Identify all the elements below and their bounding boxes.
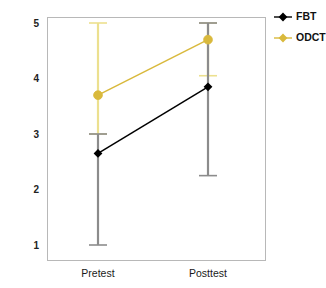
legend-marker-diamond-fbt — [279, 13, 288, 22]
data-point-marker[interactable] — [94, 91, 103, 100]
y-tick-label-5: 5 — [33, 18, 39, 29]
x-axis-tick-labels: Pretest Posttest — [81, 267, 227, 279]
plot-area-frame — [48, 18, 266, 261]
y-tick-label-1: 1 — [33, 240, 39, 251]
chart-legend: FBT ODCT — [274, 10, 326, 43]
legend-marker-diamond-odct — [279, 34, 288, 43]
x-tick-label-pretest: Pretest — [81, 267, 114, 279]
legend-label-fbt: FBT — [296, 10, 317, 22]
legend-item-odct[interactable]: ODCT — [274, 31, 326, 43]
y-tick-label-4: 4 — [33, 73, 39, 84]
legend-label-odct: ODCT — [296, 31, 326, 43]
data-point-marker[interactable] — [204, 35, 213, 44]
chart-container: 5 4 3 2 1 Pretest Posttest FBT — [0, 0, 326, 288]
line-chart-with-error-bars: 5 4 3 2 1 Pretest Posttest FBT — [0, 0, 326, 288]
x-tick-label-posttest: Posttest — [189, 267, 227, 279]
legend-item-fbt[interactable]: FBT — [274, 10, 317, 22]
y-axis-tick-labels: 5 4 3 2 1 — [33, 18, 39, 251]
y-tick-label-2: 2 — [33, 184, 39, 195]
y-tick-label-3: 3 — [33, 129, 39, 140]
